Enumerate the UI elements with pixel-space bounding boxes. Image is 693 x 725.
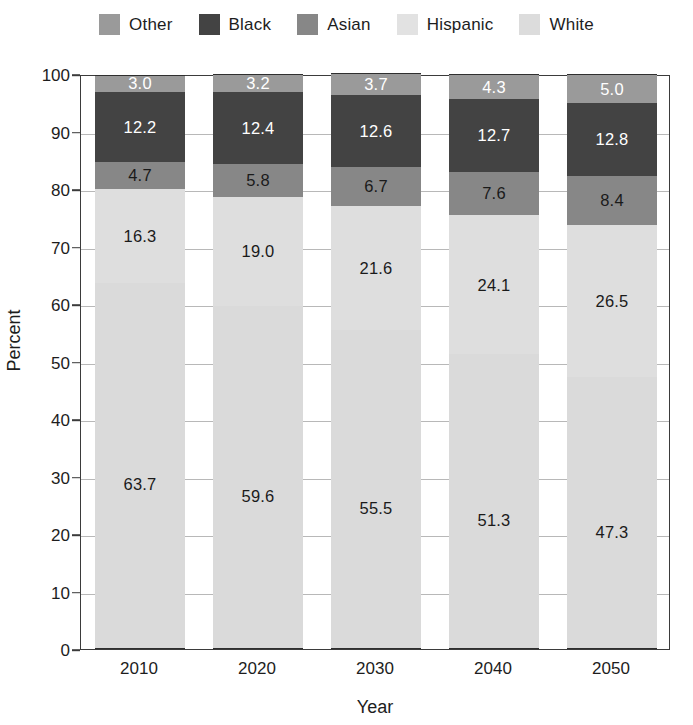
segment-value-label: 59.6 (242, 488, 275, 505)
segment-value-label: 7.6 (482, 185, 506, 202)
bar-segment-hispanic: 16.3 (95, 189, 184, 283)
bar-segment-black: 12.8 (567, 103, 656, 177)
segment-value-label: 4.7 (128, 167, 152, 184)
bar-segment-asian: 5.8 (213, 164, 302, 197)
legend-swatch-icon (199, 14, 220, 35)
segment-value-label: 8.4 (600, 192, 624, 209)
segment-value-label: 4.3 (482, 79, 506, 96)
bar-segment-other: 3.7 (331, 73, 420, 94)
bar-segment-hispanic: 26.5 (567, 225, 656, 377)
legend-swatch-icon (519, 14, 540, 35)
y-tick-mark (72, 477, 80, 479)
y-axis-title: Percent (4, 281, 25, 401)
bar-segment-asian: 8.4 (567, 176, 656, 224)
legend-entry-asian[interactable]: Asian (297, 14, 371, 35)
bar-segment-white: 55.5 (331, 330, 420, 649)
legend-swatch-icon (99, 14, 120, 35)
segment-value-label: 47.3 (596, 524, 629, 541)
bar-segment-asian: 6.7 (331, 167, 420, 206)
segment-value-label: 12.6 (360, 123, 393, 140)
segment-value-label: 12.4 (242, 120, 275, 137)
legend-label: Hispanic (427, 16, 494, 33)
legend-swatch-icon (397, 14, 418, 35)
legend-label: Asian (327, 16, 371, 33)
bar-segment-other: 5.0 (567, 74, 656, 103)
segment-value-label: 5.0 (600, 81, 624, 98)
y-tick-label: 90 (8, 125, 70, 142)
bar-segment-hispanic: 24.1 (449, 215, 538, 354)
chart-legend: OtherBlackAsianHispanicWhite (0, 14, 693, 35)
bar-segment-asian: 7.6 (449, 172, 538, 216)
segment-value-label: 3.7 (364, 76, 388, 93)
segment-value-label: 63.7 (124, 476, 157, 493)
legend-entry-hispanic[interactable]: Hispanic (397, 14, 494, 35)
segment-value-label: 12.7 (478, 127, 511, 144)
y-tick-mark (72, 132, 80, 134)
y-tick-label: 70 (8, 240, 70, 257)
bar-segment-other: 3.2 (213, 74, 302, 92)
y-tick-mark (72, 419, 80, 421)
segment-value-label: 55.5 (360, 500, 393, 517)
segment-value-label: 26.5 (596, 293, 629, 310)
bar-2050[interactable]: 47.326.58.412.85.0 (568, 76, 656, 649)
segment-value-label: 12.8 (596, 131, 629, 148)
bar-segment-white: 63.7 (95, 283, 184, 649)
bar-segment-black: 12.7 (449, 99, 538, 172)
x-tick-label: 2040 (438, 660, 548, 677)
x-tick-label: 2020 (202, 660, 312, 677)
legend-label: Other (129, 16, 173, 33)
y-tick-label: 0 (8, 642, 70, 659)
segment-value-label: 5.8 (246, 172, 270, 189)
y-tick-mark (72, 592, 80, 594)
bar-segment-other: 4.3 (449, 74, 538, 99)
x-tick-label: 2030 (320, 660, 430, 677)
y-tick-mark (72, 74, 80, 76)
bar-segment-asian: 4.7 (95, 162, 184, 189)
legend-label: Black (229, 16, 272, 33)
segment-value-label: 6.7 (364, 178, 388, 195)
x-tick-label: 2050 (556, 660, 666, 677)
y-tick-mark (72, 649, 80, 651)
bar-segment-other: 3.0 (95, 75, 184, 92)
y-tick-label: 40 (8, 412, 70, 429)
bar-2030[interactable]: 55.521.66.712.63.7 (332, 76, 420, 649)
y-tick-mark (72, 534, 80, 536)
y-tick-label: 80 (8, 182, 70, 199)
y-tick-label: 100 (8, 67, 70, 84)
y-tick-label: 10 (8, 585, 70, 602)
y-tick-mark (72, 304, 80, 306)
bar-segment-hispanic: 19.0 (213, 197, 302, 306)
bar-2020[interactable]: 59.619.05.812.43.2 (214, 76, 302, 649)
y-tick-mark (72, 189, 80, 191)
segment-value-label: 3.2 (246, 75, 270, 92)
bars-layer: 63.716.34.712.23.059.619.05.812.43.255.5… (81, 76, 669, 649)
bar-segment-black: 12.4 (213, 92, 302, 163)
bar-segment-white: 59.6 (213, 306, 302, 649)
legend-entry-white[interactable]: White (519, 14, 593, 35)
bar-segment-black: 12.2 (95, 92, 184, 162)
x-axis-tick-labels: 20102020203020402050 (80, 660, 670, 684)
y-tick-label: 30 (8, 470, 70, 487)
segment-value-label: 16.3 (124, 228, 157, 245)
x-axis-title: Year (80, 697, 670, 718)
segment-value-label: 51.3 (478, 512, 511, 529)
bar-segment-hispanic: 21.6 (331, 206, 420, 330)
y-tick-label: 20 (8, 527, 70, 544)
legend-label: White (549, 16, 593, 33)
y-tick-mark (72, 362, 80, 364)
legend-entry-black[interactable]: Black (199, 14, 272, 35)
segment-value-label: 24.1 (478, 277, 511, 294)
segment-value-label: 3.0 (128, 75, 152, 92)
bar-segment-black: 12.6 (331, 95, 420, 167)
legend-entry-other[interactable]: Other (99, 14, 173, 35)
bar-segment-white: 47.3 (567, 377, 656, 649)
bar-2010[interactable]: 63.716.34.712.23.0 (96, 76, 184, 649)
bar-2040[interactable]: 51.324.17.612.74.3 (450, 76, 538, 649)
x-tick-label: 2010 (84, 660, 194, 677)
segment-value-label: 19.0 (242, 243, 275, 260)
plot-area: 63.716.34.712.23.059.619.05.812.43.255.5… (80, 75, 670, 650)
stacked-bar-chart: OtherBlackAsianHispanicWhite 01020304050… (0, 0, 693, 725)
y-axis-tick-marks (72, 75, 80, 650)
bar-segment-white: 51.3 (449, 354, 538, 649)
legend-swatch-icon (297, 14, 318, 35)
